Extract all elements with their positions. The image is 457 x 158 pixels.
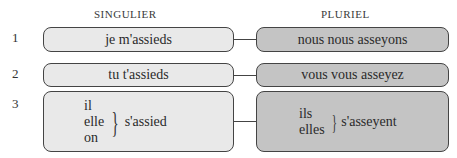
singular-form: tu t'assieds: [108, 67, 168, 83]
header-singular: SINGULIER: [94, 8, 157, 20]
row-number: 2: [12, 66, 19, 82]
row-number: 1: [12, 30, 19, 46]
header-plural: PLURIEL: [321, 8, 370, 20]
singular-cell: je m'assieds: [43, 27, 234, 52]
row-number: 3: [12, 96, 19, 112]
brace-icon: }: [112, 107, 119, 137]
plural-form: vous vous asseyez: [301, 67, 404, 83]
connector-line: [234, 75, 256, 76]
pronoun-list: ils elles: [299, 106, 325, 138]
plural-cell: ils elles } s'asseyent: [256, 91, 449, 152]
verb-form: s'assied: [125, 114, 167, 130]
pronoun: elles: [299, 122, 325, 138]
pronoun-group: ils elles } s'asseyent: [299, 106, 397, 138]
pronoun: elle: [84, 114, 104, 130]
singular-cell: il elle on } s'assied: [43, 91, 234, 152]
pronoun-list: il elle on: [84, 98, 104, 146]
brace-icon: }: [331, 111, 336, 133]
plural-cell: vous vous asseyez: [256, 63, 449, 87]
pronoun-group: il elle on } s'assied: [84, 98, 167, 146]
connector-line: [234, 121, 256, 122]
pronoun: ils: [299, 106, 325, 122]
plural-form: nous nous asseyons: [298, 32, 408, 48]
singular-form: je m'assieds: [105, 32, 172, 48]
pronoun: on: [84, 130, 104, 146]
verb-form: s'asseyent: [341, 114, 396, 130]
pronoun: il: [84, 98, 104, 114]
connector-line: [234, 39, 256, 40]
plural-cell: nous nous asseyons: [256, 27, 449, 52]
singular-cell: tu t'assieds: [43, 63, 234, 87]
